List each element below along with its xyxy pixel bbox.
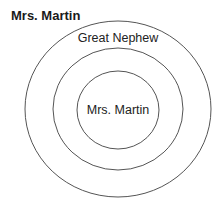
outer-ring-label: Great Nephew [78,31,160,45]
inner-ring-label: Mrs. Martin [87,103,150,117]
concentric-circles-diagram: Great Nephew Mrs. Martin [0,0,222,209]
